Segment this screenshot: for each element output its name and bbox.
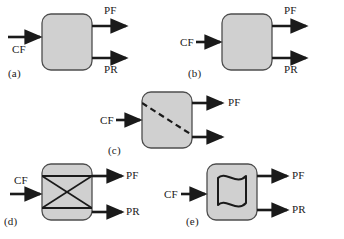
input-label-cf-b: CF	[180, 37, 194, 48]
input-label-cf-e: CF	[164, 189, 178, 200]
output-label-pf-d: PF	[126, 170, 139, 181]
output-label-pr-a: PR	[104, 64, 118, 75]
panel-label-b: (b)	[188, 68, 201, 79]
panel-a: PF PR CF (a)	[0, 0, 150, 92]
input-label-cf-c: CF	[100, 115, 114, 126]
panel-label-a: (a)	[8, 68, 21, 79]
process-block-e	[207, 164, 257, 220]
panel-label-d: (d)	[4, 216, 17, 227]
figure-canvas: PF PR CF (a) PF PR CF (b)	[0, 0, 344, 239]
process-block-a	[42, 14, 92, 70]
input-label-cf-d: CF	[14, 175, 28, 186]
panel-d: PF PR CF (d)	[0, 155, 160, 239]
output-label-pf-a: PF	[104, 5, 117, 16]
input-label-cf-a: CF	[12, 44, 26, 55]
panel-c: PF CF (c)	[100, 85, 264, 165]
output-label-pr-d: PR	[126, 206, 140, 217]
panel-e: PF PR CF (e)	[180, 155, 344, 239]
output-label-pf-e: PF	[292, 170, 305, 181]
panel-b-diagram	[180, 0, 344, 92]
output-label-pr-b: PR	[284, 64, 298, 75]
panel-b: PF PR CF (b)	[180, 0, 344, 92]
panel-d-diagram	[0, 155, 160, 239]
output-label-pf-b: PF	[284, 5, 297, 16]
panel-label-e: (e)	[186, 216, 199, 227]
output-label-pr-e: PR	[292, 204, 306, 215]
output-label-pf-c: PF	[228, 97, 241, 108]
process-block-b	[222, 14, 272, 70]
panel-e-diagram	[180, 155, 344, 239]
